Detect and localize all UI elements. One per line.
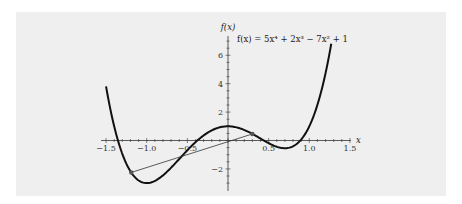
point-marker — [250, 132, 254, 136]
x-tick-label: −1.5 — [96, 144, 115, 153]
chart-title: f(x) = 5x⁴ + 2x³ − 7x² + 1 — [237, 34, 348, 44]
y-ticks: −2246 — [211, 41, 230, 183]
axes: −1.5−1.0−0.50.51.01.5 −2246 x f(x) — [96, 22, 361, 191]
y-tick-label: 6 — [218, 51, 223, 60]
secant-line — [131, 134, 252, 172]
y-tick-label: −2 — [211, 165, 223, 174]
x-tick-label: −1.0 — [137, 144, 156, 153]
function-plot: −1.5−1.0−0.50.51.01.5 −2246 x f(x) f(x) … — [0, 0, 462, 204]
y-tick-label: 4 — [218, 80, 223, 89]
y-axis-label: f(x) — [220, 22, 236, 32]
x-tick-label: 1.5 — [344, 144, 357, 153]
x-axis-label: x — [356, 135, 361, 145]
x-tick-label: 1.0 — [303, 144, 316, 153]
y-tick-label: 2 — [218, 108, 223, 117]
point-marker — [129, 170, 133, 174]
